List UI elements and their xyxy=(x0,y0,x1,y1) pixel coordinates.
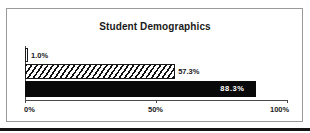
axis-tick-label-2: 100% xyxy=(270,106,289,114)
chart-screenshot: Student Demographics 1.0% 57.3% 88.3% 0%… xyxy=(0,0,310,133)
axis-tick-1 xyxy=(156,100,157,103)
bar-value-label-series-2: 57.3% xyxy=(178,68,199,76)
bar-value-label-series-3: 88.3% xyxy=(220,85,244,93)
bottom-divider-rule xyxy=(0,128,310,131)
axis-tick-label-0: 0% xyxy=(24,106,35,114)
plot-area xyxy=(25,46,287,100)
axis-tick-2 xyxy=(287,100,288,103)
chart-title: Student Demographics xyxy=(0,21,310,32)
bar-series-1[interactable] xyxy=(25,48,28,62)
axis-tick-0 xyxy=(25,100,26,103)
bar-series-2[interactable] xyxy=(25,64,175,79)
bar-value-label-series-1: 1.0% xyxy=(31,52,48,60)
axis-tick-label-1: 50% xyxy=(148,106,163,114)
